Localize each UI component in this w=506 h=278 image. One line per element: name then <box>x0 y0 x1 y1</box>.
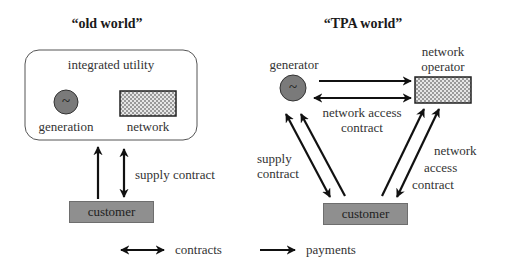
right-contract-label-3: contract <box>412 178 454 192</box>
tpa-world-title: “TPA world” <box>308 16 418 32</box>
network-access-contract-label-1: network access <box>310 106 414 120</box>
customer-box-old: customer <box>69 201 154 223</box>
network-operator-label-2: operator <box>413 60 473 74</box>
supply-contract-label-old: supply contract <box>135 168 215 182</box>
network-icon <box>120 91 176 116</box>
customer-label-old: customer <box>88 204 136 220</box>
diagram-canvas <box>0 0 506 278</box>
generation-symbol: ~ <box>56 94 76 108</box>
right-contract-label-2: access <box>424 161 457 175</box>
legend-contracts-label: contracts <box>175 243 222 257</box>
generation-label: generation <box>30 120 102 134</box>
supply-contract-label-tpa-2: contract <box>257 167 299 181</box>
generator-symbol: ~ <box>283 80 303 94</box>
network-access-contract-label-2: contract <box>310 121 414 135</box>
customer-box-tpa: customer <box>323 203 408 225</box>
customer-label-tpa: customer <box>342 206 390 222</box>
old-world-title: “old world” <box>57 16 157 32</box>
network-operator-label-1: network <box>413 45 473 59</box>
network-label: network <box>118 120 178 134</box>
integrated-utility-label: integrated utility <box>25 58 197 72</box>
supply-contract-label-tpa-1: supply <box>257 152 292 166</box>
network-operator-icon <box>415 77 471 103</box>
generator-label: generator <box>263 58 325 72</box>
legend-payments-label: payments <box>306 243 356 257</box>
right-contract-label-1: network <box>434 144 477 158</box>
